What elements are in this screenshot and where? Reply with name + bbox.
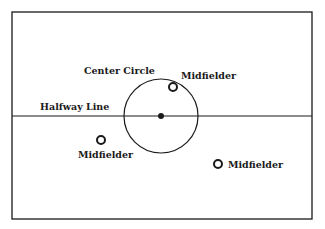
player-midfielder-left: Midfielder: [78, 136, 134, 160]
player-label: Midfielder: [181, 70, 237, 81]
player-marker-icon: [214, 160, 222, 168]
center-circle-label: Center Circle: [84, 65, 155, 76]
player-marker-icon: [169, 83, 177, 91]
soccer-field-diagram: Center Circle Halfway Line Midfielder Mi…: [0, 0, 325, 229]
center-spot: [158, 113, 164, 119]
player-midfielder-right: Midfielder: [214, 159, 284, 170]
player-label: Midfielder: [228, 159, 284, 170]
halfway-line-label: Halfway Line: [40, 101, 109, 112]
player-marker-icon: [97, 136, 105, 144]
player-label: Midfielder: [78, 149, 134, 160]
player-midfielder-top: Midfielder: [169, 70, 237, 91]
